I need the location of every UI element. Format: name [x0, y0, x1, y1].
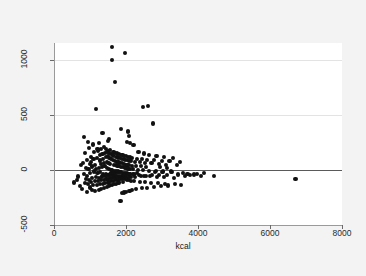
data-point — [75, 178, 79, 182]
data-point — [110, 58, 114, 62]
data-point — [94, 107, 98, 111]
data-point — [140, 186, 144, 190]
data-point — [173, 182, 177, 186]
data-point — [110, 45, 114, 49]
x-tick-label-8000: 8000 — [322, 228, 362, 238]
data-point — [131, 143, 135, 147]
data-point — [212, 174, 216, 178]
data-point — [83, 151, 87, 155]
data-points-layer — [55, 43, 342, 225]
data-point — [141, 105, 145, 109]
x-tick-label-6000: 6000 — [250, 228, 290, 238]
data-point — [143, 180, 147, 184]
data-point — [86, 140, 90, 144]
data-point — [91, 142, 95, 146]
data-point — [151, 121, 155, 125]
data-point — [132, 179, 136, 183]
data-point — [179, 183, 183, 187]
data-point — [82, 135, 86, 139]
data-point — [107, 137, 111, 141]
data-point — [152, 158, 156, 162]
y-tick-label-1000: 1000 — [19, 39, 29, 79]
data-point — [80, 187, 84, 191]
data-point — [141, 168, 145, 172]
x-tick-label-2000: 2000 — [106, 228, 146, 238]
data-point — [152, 185, 156, 189]
data-point — [170, 170, 174, 174]
y-tick-500 — [50, 115, 54, 116]
data-point — [76, 174, 80, 178]
data-point — [134, 187, 138, 191]
data-point — [113, 80, 117, 84]
data-point — [166, 183, 170, 187]
data-point — [146, 104, 150, 108]
plot-area — [54, 43, 342, 225]
data-point — [145, 186, 149, 190]
data-point — [160, 159, 164, 163]
data-point — [176, 172, 180, 176]
data-point — [136, 150, 140, 154]
data-point — [118, 199, 122, 203]
data-point — [85, 190, 89, 194]
y-tick-label-0: 0 — [19, 149, 29, 189]
data-point — [138, 180, 142, 184]
x-tick-label-4000: 4000 — [178, 228, 218, 238]
y-tick-label--500: -500 — [19, 204, 29, 244]
data-point — [293, 177, 297, 181]
y-tick-1000 — [50, 60, 54, 61]
x-axis-title: kcal — [0, 241, 366, 251]
data-point — [147, 153, 151, 157]
data-point — [154, 154, 158, 158]
data-point — [81, 161, 85, 165]
data-point — [167, 159, 171, 163]
data-point — [162, 155, 166, 159]
data-point — [127, 134, 131, 138]
y-tick-label-500: 500 — [19, 94, 29, 134]
data-point — [202, 171, 206, 175]
x-tick-label-0: 0 — [34, 228, 74, 238]
data-point — [126, 129, 130, 133]
data-point — [142, 151, 146, 155]
data-point — [95, 147, 99, 151]
data-point — [147, 169, 151, 173]
data-point — [178, 160, 182, 164]
data-point — [123, 51, 127, 55]
data-point — [136, 168, 140, 172]
data-point — [171, 156, 175, 160]
data-point — [97, 141, 101, 145]
scatter-plot-figure: -50005001000 02000400060008000 Pearson r… — [0, 0, 366, 276]
data-point — [149, 161, 153, 165]
y-tick-0 — [50, 170, 54, 171]
data-point — [100, 131, 104, 135]
data-point — [165, 173, 169, 177]
data-point — [119, 127, 123, 131]
data-point — [172, 176, 176, 180]
